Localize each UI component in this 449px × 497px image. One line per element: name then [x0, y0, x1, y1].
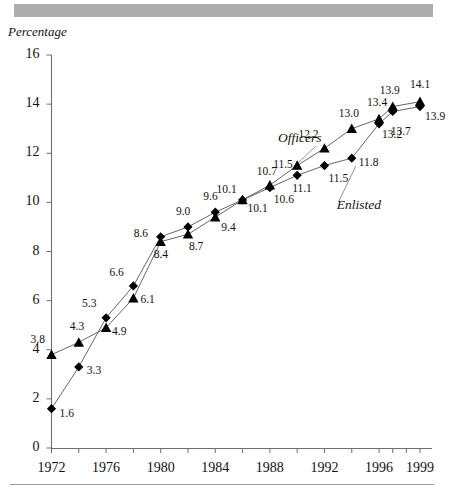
y-axis-ticks [47, 55, 52, 448]
data-point-label: 5.3 [82, 297, 96, 309]
data-point-label: 13.9 [425, 110, 445, 122]
data-point-label: 4.9 [112, 325, 126, 337]
data-point-label: 13.4 [367, 96, 387, 108]
data-point-marker-triangle [347, 123, 357, 132]
data-point-label: 4.3 [70, 320, 84, 332]
data-point-label: 10.1 [248, 202, 268, 214]
x-axis-tick-label: 1972 [29, 460, 75, 476]
data-point-marker-diamond [47, 404, 56, 413]
data-point-marker-triangle [74, 337, 84, 346]
data-point-label: 11.8 [359, 156, 379, 168]
data-point-label: 1.6 [60, 407, 74, 419]
data-point-label: 9.4 [221, 221, 235, 233]
x-axis-tick-label: 1976 [83, 460, 129, 476]
y-axis-tick-label: 0 [14, 439, 40, 455]
data-point-marker-diamond [347, 154, 356, 163]
chart-canvas [0, 0, 449, 497]
series-lines [52, 102, 421, 409]
data-point-marker-diamond [74, 362, 83, 371]
data-point-marker-diamond [320, 161, 329, 170]
bottom-rule [10, 484, 434, 485]
x-axis-tick-label: 1984 [192, 460, 238, 476]
series-line-enlisted [52, 107, 421, 409]
y-axis-tick-label: 10 [14, 193, 40, 209]
x-axis-tick-label: 1992 [301, 460, 347, 476]
data-point-marker-triangle [46, 349, 56, 358]
data-point-label: 9.0 [176, 205, 190, 217]
data-point-marker-triangle [128, 293, 138, 302]
data-point-label: 6.6 [109, 266, 123, 278]
y-axis-tick-label: 8 [14, 243, 40, 259]
y-axis-tick-label: 6 [14, 292, 40, 308]
data-point-label: 3.3 [87, 364, 101, 376]
y-axis-tick-label: 14 [14, 95, 40, 111]
series-annotation-officers: Officers [278, 130, 322, 146]
data-point-label: 8.6 [134, 227, 148, 239]
series-annotation-enlisted: Enlisted [337, 197, 381, 213]
data-point-label: 13.7 [391, 125, 411, 137]
data-point-label: 13.0 [339, 107, 359, 119]
chart-axes [52, 55, 433, 449]
data-point-label: 14.1 [410, 78, 430, 90]
data-point-marker-diamond [183, 222, 192, 231]
data-point-label: 11.5 [328, 172, 348, 184]
data-point-label: 3.8 [31, 333, 45, 345]
data-point-label: 8.4 [154, 248, 168, 260]
data-point-label: 9.6 [203, 190, 217, 202]
x-axis-tick-label: 1996 [356, 460, 402, 476]
x-axis-tick-label: 1980 [138, 460, 184, 476]
data-point-label: 11.1 [292, 182, 312, 194]
y-axis-tick-label: 12 [14, 144, 40, 160]
data-point-marker-triangle [292, 160, 302, 169]
data-point-marker-diamond [265, 183, 274, 192]
series-markers [46, 96, 425, 413]
data-point-label: 10.6 [274, 193, 294, 205]
data-point-label: 10.1 [217, 183, 237, 195]
x-axis-tick-label: 1988 [247, 460, 293, 476]
data-point-label: 11.5 [273, 158, 293, 170]
data-point-label: 6.1 [140, 293, 154, 305]
data-point-marker-diamond [156, 232, 165, 241]
data-point-label: 8.7 [189, 240, 203, 252]
data-point-marker-diamond [293, 171, 302, 180]
y-axis-tick-label: 16 [14, 46, 40, 62]
data-point-label: 13.9 [380, 84, 400, 96]
y-axis-tick-label: 2 [14, 390, 40, 406]
x-axis-tick-label: 1999 [397, 460, 443, 476]
